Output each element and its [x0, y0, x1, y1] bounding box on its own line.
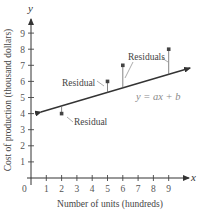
x-tick-label: 1: [44, 184, 49, 194]
y-tick-label: 4: [20, 109, 25, 119]
y-tick-label: 6: [20, 77, 25, 87]
x-tick-label: 9: [166, 184, 171, 194]
y-tick-label: 2: [20, 141, 25, 151]
residual-label-mid: Residual: [62, 78, 96, 88]
x-axis-title: Number of units (hundreds): [57, 199, 163, 210]
x-tick-label: 6: [120, 184, 125, 194]
x-tick-label: 7: [136, 184, 141, 194]
y-tick-label: 1: [20, 157, 25, 167]
x-tick-label: 3: [75, 184, 80, 194]
leader-residuals-left: [125, 62, 133, 78]
data-point: [167, 47, 171, 51]
regression-equation: y = ax + b: [135, 91, 181, 102]
leader-residual-mid: [97, 81, 104, 86]
y-axis-ticks: 123456789: [20, 29, 34, 168]
data-point: [121, 64, 125, 68]
x-tick-label: 8: [151, 184, 156, 194]
y-tick-label: 8: [20, 45, 25, 55]
regression-line: [41, 68, 190, 112]
y-tick-label: 3: [20, 125, 25, 135]
data-point: [60, 112, 64, 116]
residuals-label: Residuals: [128, 52, 165, 62]
data-point: [106, 80, 110, 84]
y-tick-label: 9: [20, 29, 25, 39]
y-tick-label: 5: [20, 93, 25, 103]
y-tick-label: 7: [20, 61, 25, 71]
scatter-regression-chart: y x 0 123456789 123456789 Number of unit…: [0, 0, 202, 212]
residual-label-low: Residual: [74, 117, 108, 127]
origin-label: 0: [22, 184, 27, 194]
x-tick-label: 5: [105, 184, 110, 194]
x-tick-label: 4: [90, 184, 95, 194]
x-tick-label: 2: [59, 184, 64, 194]
y-axis-title: Cost of production (thousand dollars): [3, 29, 14, 171]
leader-residual-low: [67, 117, 73, 122]
y-axis-name: y: [27, 2, 33, 14]
x-axis-name: x: [190, 171, 196, 183]
